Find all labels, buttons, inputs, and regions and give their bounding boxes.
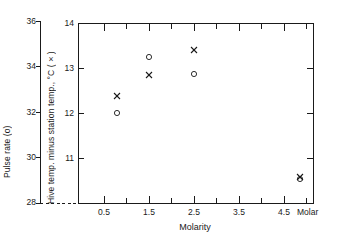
data-point-circle-2: [191, 71, 196, 76]
data-point-cross-1: [146, 72, 152, 78]
series-temp-difference: [114, 47, 303, 180]
series-pulse-rate: [114, 54, 302, 181]
chart-figure: Pulse rate (o) Hive temp. minus station …: [0, 0, 340, 238]
chart-canvas: [0, 0, 340, 238]
data-point-circle-0: [114, 110, 119, 115]
data-point-circle-1: [146, 54, 151, 59]
data-point-cross-2: [191, 47, 197, 53]
plot-frame: [78, 23, 313, 203]
data-point-cross-0: [114, 93, 120, 99]
